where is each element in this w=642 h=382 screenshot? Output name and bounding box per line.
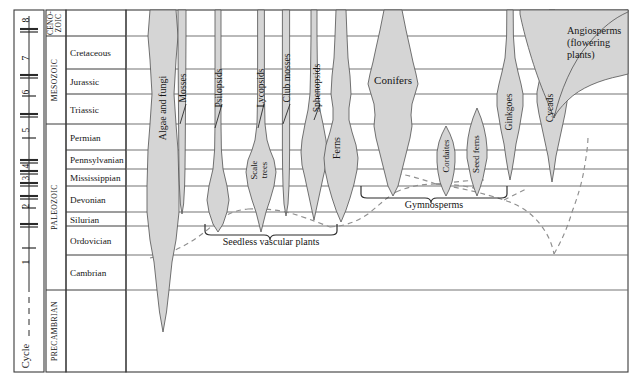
label-ginkgoes: Ginkgoes [503, 93, 514, 130]
period-label: Jurassic [70, 77, 99, 87]
period-label: Cretaceous [70, 48, 111, 58]
period-label: Devonian [70, 195, 106, 205]
cycle-tick-label: 7 [21, 55, 31, 60]
label-gymnosperms: Gymnosperms [405, 199, 463, 210]
band-mosses [178, 10, 186, 214]
period-label: Ordovician [70, 236, 112, 246]
label-angiosperms-line1: Angiosperms [567, 25, 621, 36]
label-scale-trees-line2: trees [259, 161, 269, 178]
plant-evolution-timeline-figure: 87654321Cycle CENO-ZOICMESOZOICPALEOZOIC… [0, 0, 642, 382]
label-sphenopsids: Sphenopsids [311, 63, 322, 112]
era-label: MESOZOIC [50, 59, 59, 101]
era-label-line2: ZOIC [54, 14, 63, 32]
period-label: Pennsylvanian [70, 155, 124, 165]
label-club-mosses: Club mosses [281, 53, 292, 102]
label-psilopsids: Psilopsids [213, 68, 224, 107]
cycle-tick-label: 6 [21, 89, 31, 94]
period-label: Permian [70, 133, 101, 143]
era-label: PALEOZOIC [50, 184, 59, 230]
cycle-tick-label: 4 [21, 163, 31, 168]
label-seedless-vascular-plants: Seedless vascular plants [223, 236, 320, 247]
label-cycads: Cycads [544, 94, 555, 123]
figure-svg: 87654321Cycle CENO-ZOICMESOZOICPALEOZOIC… [0, 0, 642, 382]
period-label: Cambrian [70, 268, 107, 278]
label-lycopsids: Lycopsids [255, 68, 266, 107]
label-angiosperms-line2: (flowering [567, 37, 610, 49]
label-scale-trees-line1: Scale [249, 160, 259, 179]
era-label: PRECAMBRIAN [50, 301, 59, 361]
cycle-axis-title: Cycle [20, 343, 31, 368]
label-seed-ferns: Seed ferns [471, 135, 481, 173]
cycle-tick-label: 2 [21, 203, 31, 208]
label-ferns: Ferns [331, 137, 342, 159]
period-label: Triassic [70, 105, 99, 115]
band-club-mosses [282, 10, 289, 216]
label-cordaites: Cordaites [441, 139, 451, 173]
cycle-tick-label: 1 [21, 259, 31, 264]
label-angiosperms-line3: plants) [567, 49, 595, 61]
cycle-tick-label: 3 [21, 175, 31, 180]
label-mosses: Mosses [177, 73, 188, 102]
period-label: Mississippian [70, 173, 121, 183]
cycle-tick-label: 5 [21, 127, 31, 132]
period-label: Silurian [70, 215, 99, 225]
label-conifers: Conifers [374, 74, 412, 86]
label-algae-and-fungi: Algae and fungi [157, 76, 168, 141]
cycle-tick-label: 8 [21, 17, 31, 22]
